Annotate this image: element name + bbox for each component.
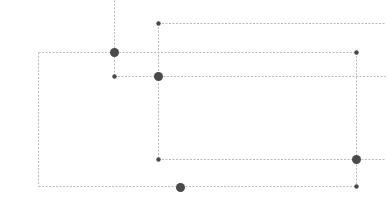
small-node-n6[interactable] <box>354 50 358 54</box>
nodes-layer <box>110 21 361 192</box>
large-node-n1[interactable] <box>110 48 119 57</box>
diagram-canvas <box>0 0 388 204</box>
small-node-n2[interactable] <box>112 74 116 78</box>
edges-layer <box>39 1 386 187</box>
large-node-n4[interactable] <box>154 72 163 81</box>
tree-diagram <box>0 0 388 204</box>
large-node-n9[interactable] <box>176 183 185 192</box>
large-node-n7[interactable] <box>352 155 361 164</box>
small-node-n3[interactable] <box>156 21 160 25</box>
small-node-n5[interactable] <box>156 157 160 161</box>
small-node-n8[interactable] <box>354 184 358 188</box>
